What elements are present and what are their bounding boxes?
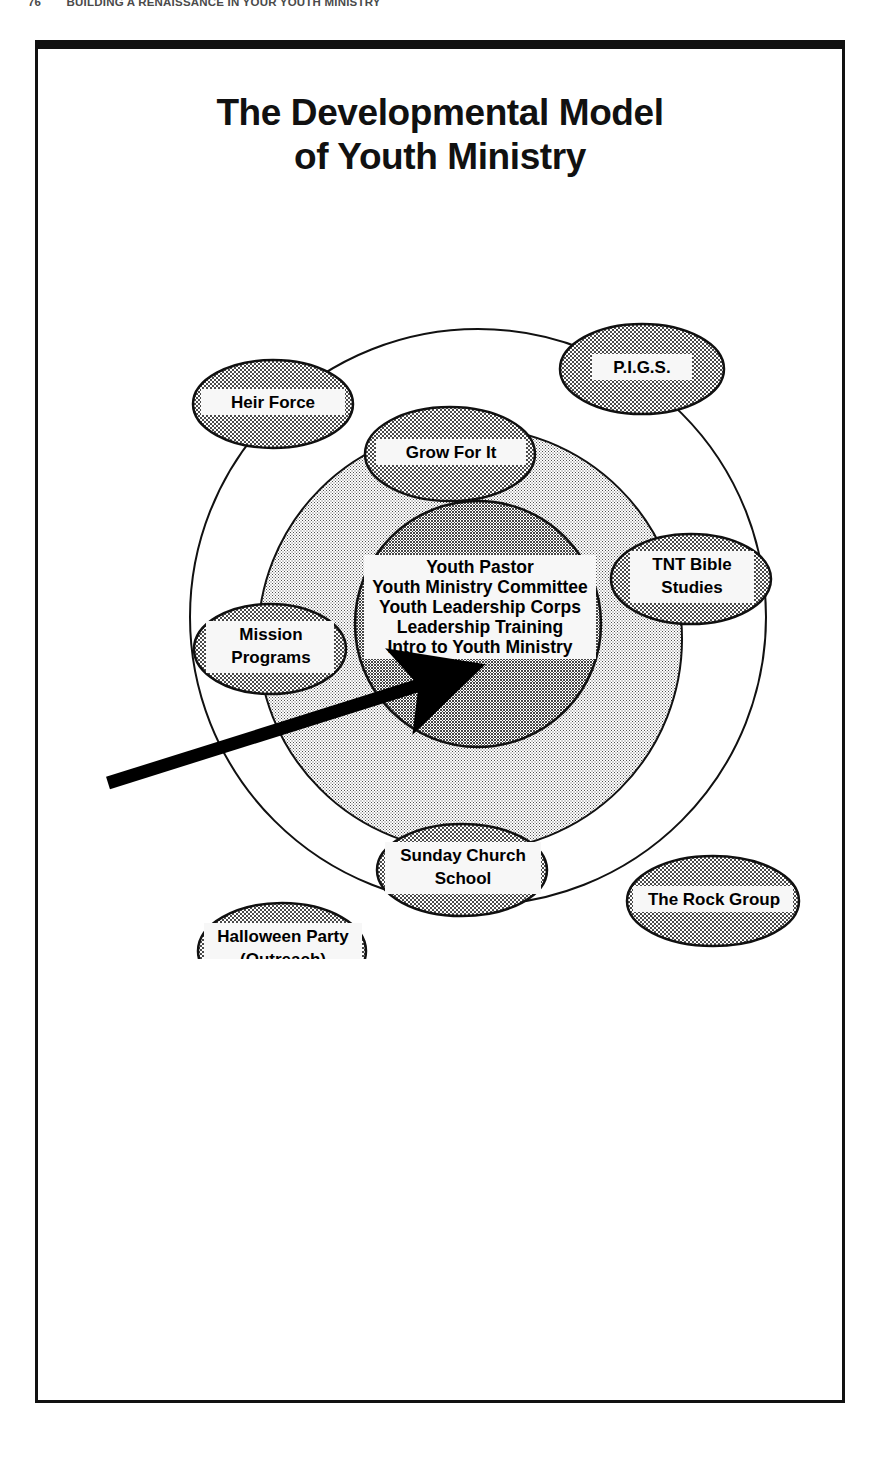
ellipse-label-tnt-line-2: Studies <box>661 578 722 597</box>
figure-title-line-2: of Youth Ministry <box>38 135 842 179</box>
ellipse-the-rock-group[interactable]: The Rock Group <box>627 856 799 946</box>
center-line-3: Youth Leadership Corps <box>379 597 581 617</box>
running-head: 76 BUILDING A RENAISSANCE IN YOUR YOUTH … <box>28 0 728 12</box>
ellipse-tnt-bible-studies[interactable]: TNT Bible Studies <box>611 534 771 624</box>
diagram-canvas: Heir Force P.I.G.S. Grow For It <box>38 199 842 959</box>
ellipse-grow-for-it[interactable]: Grow For It <box>365 407 535 501</box>
ellipse-label-scs-line-2: School <box>435 869 492 888</box>
ellipse-sunday-church-school[interactable]: Sunday Church School <box>377 824 547 916</box>
ellipse-label-mission-line-1: Mission <box>239 625 302 644</box>
book-page: 76 BUILDING A RENAISSANCE IN YOUR YOUTH … <box>0 0 882 1466</box>
running-head-title: BUILDING A RENAISSANCE IN YOUR YOUTH MIN… <box>67 0 381 8</box>
ellipse-label-tnt-line-1: TNT Bible <box>652 555 731 574</box>
ellipse-mission-programs[interactable]: Mission Programs <box>194 604 346 694</box>
ellipse-pigs[interactable]: P.I.G.S. <box>560 324 724 414</box>
ellipse-label-halloween-line-2: (Outreach) <box>240 950 326 959</box>
ellipse-label-the-rock-group: The Rock Group <box>648 890 780 909</box>
ellipse-label-heir-force: Heir Force <box>231 393 315 412</box>
page-folio-number: 76 <box>28 0 41 8</box>
ellipse-label-scs-line-1: Sunday Church <box>400 846 526 865</box>
figure-title: The Developmental Model of Youth Ministr… <box>38 91 842 178</box>
center-line-4: Leadership Training <box>397 617 563 637</box>
center-line-1: Youth Pastor <box>426 557 534 577</box>
center-line-5: Intro to Youth Ministry <box>387 637 572 657</box>
ellipse-label-halloween-line-1: Halloween Party <box>217 927 349 946</box>
ellipse-halloween-party[interactable]: Halloween Party (Outreach) <box>198 903 366 959</box>
ellipse-label-mission-line-2: Programs <box>231 648 310 667</box>
developmental-model-diagram: Heir Force P.I.G.S. Grow For It <box>38 199 842 959</box>
figure-title-line-1: The Developmental Model <box>38 91 842 135</box>
center-core-label: Youth Pastor Youth Ministry Committee Yo… <box>364 555 596 659</box>
figure-frame: The Developmental Model of Youth Ministr… <box>35 40 845 1403</box>
ellipse-heir-force[interactable]: Heir Force <box>193 360 353 448</box>
ellipse-label-grow-for-it: Grow For It <box>406 443 497 462</box>
center-line-2: Youth Ministry Committee <box>372 577 588 597</box>
ellipse-label-pigs: P.I.G.S. <box>613 358 670 377</box>
